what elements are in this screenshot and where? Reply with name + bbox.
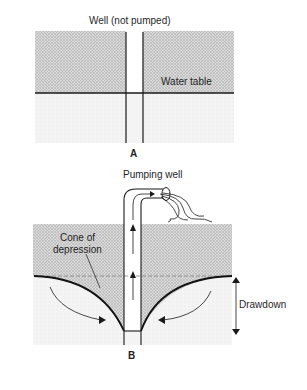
- groundwater-diagram: [0, 0, 307, 390]
- water-table-label: Water table: [161, 76, 212, 88]
- pumping-well-title: Pumping well: [123, 169, 182, 181]
- pump-pipe-interior: [124, 200, 141, 331]
- panel-b-label: B: [128, 350, 135, 362]
- panel-a-label: A: [130, 148, 137, 160]
- cone-label-line1: Cone of: [60, 232, 95, 244]
- well-not-pumped-title: Well (not pumped): [89, 15, 171, 27]
- flow-arrow-spout: [150, 191, 155, 197]
- panel-b: [33, 188, 240, 346]
- well-bore-a: [126, 31, 143, 93]
- drawdown-label: Drawdown: [239, 299, 286, 311]
- cone-label-line2: depression: [53, 244, 102, 256]
